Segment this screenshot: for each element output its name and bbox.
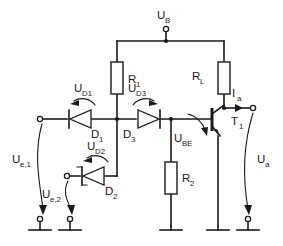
ue2-label-sub: e,2 xyxy=(50,195,61,204)
d3-label-sub: 3 xyxy=(131,135,135,144)
ud1-label-sub: D1 xyxy=(82,89,92,98)
schematic-canvas: R 1 R L R 2 D 1 D 3 xyxy=(0,0,283,246)
measure-ue2: U e,2 xyxy=(42,181,75,215)
r2-label-sub: 2 xyxy=(190,179,194,188)
terminal-ue2[interactable] xyxy=(64,173,69,178)
rl-label-sub: L xyxy=(200,77,205,86)
r2-body xyxy=(165,162,177,194)
node-d1-d3-r1 xyxy=(115,117,119,121)
r1-label-sub: 1 xyxy=(136,80,140,89)
measure-ua: U a xyxy=(244,113,270,215)
ud3-label-sub: D3 xyxy=(136,89,146,98)
ua-label-sub: a xyxy=(265,160,270,169)
node-base-r2 xyxy=(169,117,173,121)
d1-label-sub: 1 xyxy=(99,135,103,144)
ue2-arrow xyxy=(67,205,75,215)
d1-triangle xyxy=(70,110,91,128)
ube-label-sub: BE xyxy=(182,139,192,148)
ue1-label-sub: e,1 xyxy=(20,160,31,169)
ue1-arrow xyxy=(39,205,47,215)
measure-ud2: U D2 xyxy=(83,140,108,163)
measure-ud1: U D1 xyxy=(70,82,95,106)
ia-label: I xyxy=(232,87,235,99)
resistor-r2: R 2 xyxy=(165,162,194,194)
t1-collector-lead xyxy=(212,105,224,114)
wiring xyxy=(42,31,251,226)
ud2-label-sub: D2 xyxy=(95,147,105,156)
terminal-gnd-ua[interactable] xyxy=(245,216,250,221)
terminal-gnd-ue1[interactable] xyxy=(37,216,42,221)
r1-body xyxy=(111,62,123,94)
circuit-diagram: R 1 R L R 2 D 1 D 3 xyxy=(0,0,283,246)
ube-arrow xyxy=(201,127,208,136)
d2-triangle xyxy=(83,167,104,185)
diode-d3: D 3 xyxy=(123,110,160,144)
d3-triangle xyxy=(138,110,159,128)
d2-label-sub: 2 xyxy=(113,192,117,201)
t1-label: T xyxy=(231,115,238,127)
node-collector-out xyxy=(222,106,226,110)
t1-label-sub: 1 xyxy=(239,122,243,131)
diode-d2-zener: D 2 xyxy=(77,167,117,201)
ua-arc xyxy=(245,113,253,209)
resistor-rl: R L xyxy=(192,62,230,94)
measure-ud3: U D3 xyxy=(128,82,158,106)
node-supply-rail xyxy=(164,39,168,43)
ia-arrow xyxy=(235,104,243,112)
terminal-ua[interactable] xyxy=(250,105,255,110)
diode-d1: D 1 xyxy=(69,110,103,144)
terminal-ub[interactable] xyxy=(163,26,168,31)
terminal-gnd-ue2[interactable] xyxy=(67,216,72,221)
terminal-ue1[interactable] xyxy=(37,116,42,121)
measure-ue1: U e,1 xyxy=(12,124,47,215)
rl-body xyxy=(218,62,230,94)
label-ub: U B xyxy=(157,9,170,25)
t1-emitter-arrow xyxy=(214,129,220,136)
ube-arc xyxy=(188,114,205,130)
ua-arrow xyxy=(244,205,252,215)
ue2-arc xyxy=(65,181,71,209)
ub-label-sub: B xyxy=(165,16,170,25)
ia-label-sub: a xyxy=(237,94,242,103)
ground-symbols xyxy=(29,222,259,230)
